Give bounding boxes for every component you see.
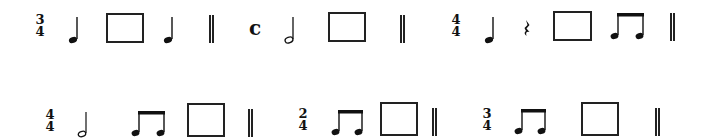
time-signature-3-4: 3 4 — [481, 108, 493, 132]
time-signature-bottom: 4 — [298, 120, 307, 132]
beamed-eighth-notes-icon — [132, 111, 168, 139]
double-barline-icon — [400, 15, 405, 43]
half-note-icon — [77, 111, 89, 139]
time-signature-2-4: 2 4 — [297, 108, 309, 132]
time-signature-4-4: 4 4 — [44, 109, 56, 133]
double-barline-icon — [655, 108, 660, 136]
answer-box[interactable] — [380, 102, 418, 136]
quarter-note-icon — [484, 16, 496, 44]
quarter-note-icon — [68, 16, 80, 44]
common-time-symbol: c — [249, 18, 261, 38]
beamed-eighth-notes-icon — [611, 13, 647, 41]
time-signature-bottom: 4 — [45, 121, 54, 133]
answer-box[interactable] — [581, 102, 619, 136]
time-signature-bottom: 4 — [451, 26, 460, 38]
double-barline-icon — [432, 108, 437, 136]
time-signature-4-4: 4 4 — [450, 14, 462, 38]
time-signature-3-4: 3 4 — [34, 14, 46, 38]
quarter-note-icon — [163, 16, 175, 44]
half-note-icon — [284, 16, 296, 44]
time-signature-bottom: 4 — [482, 120, 491, 132]
beamed-eighth-notes-icon — [332, 110, 368, 138]
answer-box[interactable] — [187, 103, 225, 137]
answer-box[interactable] — [553, 11, 592, 41]
time-signature-bottom: 4 — [35, 26, 44, 38]
answer-box[interactable] — [328, 12, 366, 42]
quarter-rest-icon — [523, 20, 531, 38]
double-barline-icon — [248, 109, 253, 137]
beamed-eighth-notes-icon — [515, 109, 551, 137]
double-barline-icon — [670, 13, 675, 41]
double-barline-icon — [209, 15, 214, 43]
answer-box[interactable] — [106, 13, 144, 43]
